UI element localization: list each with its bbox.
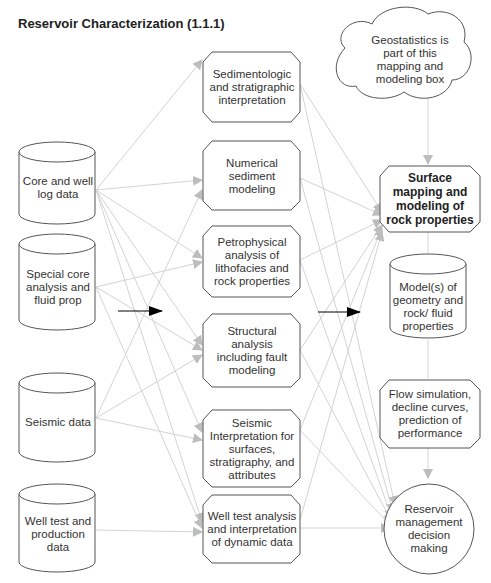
core-data-label: Core and well log data — [22, 162, 94, 214]
input-connectors — [96, 60, 202, 532]
special-core-label: Special core analysis and fluid prop — [22, 254, 94, 320]
models-label: Model(s) of geometry and rock/ fluid pro… — [392, 276, 464, 338]
well-test-analysis-label: Well test analysis and interpretation of… — [206, 497, 298, 561]
geostatistics-label: Geostatistics is part of this mapping an… — [360, 30, 460, 90]
process-connectors — [300, 84, 395, 528]
structural-label: Structural analysis including fault mode… — [208, 316, 296, 385]
decision-label: Reservoir management decision making — [392, 498, 466, 560]
numerical-label: Numerical sediment modeling — [208, 143, 296, 209]
surface-mapping-label: Surface mapping and modeling of rock pro… — [384, 168, 476, 230]
seismic-interp-label: Seismic Interpretation for surfaces, str… — [205, 412, 299, 486]
petrophysical-label: Petrophysical analysis of lithofacies an… — [206, 228, 298, 295]
flow-simulation-label: Flow simulation, decline curves, predict… — [384, 382, 476, 446]
seismic-data-label: Seismic data — [22, 393, 94, 451]
sedimentologic-label: Sedimentologic and stratigraphic interpr… — [208, 54, 296, 120]
well-test-data-label: Well test and production data — [22, 504, 94, 564]
